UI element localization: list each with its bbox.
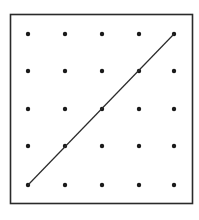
grid-dot-r2-c3 — [137, 107, 141, 111]
grid-dot-r1-c2 — [100, 69, 104, 73]
grid-dot-r2-c4 — [172, 107, 176, 111]
grid-dot-r0-c1 — [63, 32, 67, 36]
grid-dot-r3-c3 — [137, 144, 141, 148]
grid-dot-r3-c4 — [172, 144, 176, 148]
grid-dot-r1-c0 — [26, 69, 30, 73]
grid-dot-r0-c3 — [137, 32, 141, 36]
grid-dot-r0-c0 — [26, 32, 30, 36]
grid-dot-r2-c1 — [63, 107, 67, 111]
geoboard-diagram — [0, 0, 199, 220]
grid-dot-r3-c2 — [100, 144, 104, 148]
grid-dot-r1-c4 — [172, 69, 176, 73]
grid-dot-r3-c0 — [26, 144, 30, 148]
grid-dot-r4-c3 — [137, 183, 141, 187]
grid-dot-r0-c2 — [100, 32, 104, 36]
grid-dot-r2-c0 — [26, 107, 30, 111]
diagonal-segment — [28, 34, 174, 185]
grid-dot-r4-c2 — [100, 183, 104, 187]
grid-dot-r4-c4 — [172, 183, 176, 187]
grid-dot-r4-c1 — [63, 183, 67, 187]
grid-dot-r1-c1 — [63, 69, 67, 73]
